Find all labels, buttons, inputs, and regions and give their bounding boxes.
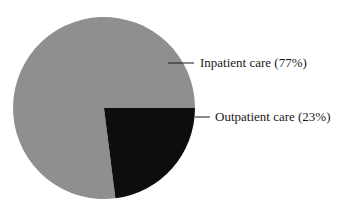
pie-chart [0,0,337,214]
label-inpatient: Inpatient care (77%) [200,56,307,69]
pie-slice-outpatient [104,108,195,198]
label-outpatient: Outpatient care (23%) [215,110,331,123]
